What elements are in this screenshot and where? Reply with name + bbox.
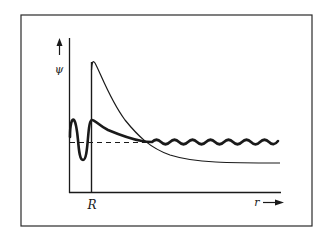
x-axis-label-group: r xyxy=(254,196,284,209)
diagram: ψ R r xyxy=(0,0,326,233)
r-marker-label: R xyxy=(86,198,96,212)
x-axis-label: r xyxy=(254,196,260,209)
figure-frame xyxy=(21,15,312,226)
y-axis-label-group: ψ xyxy=(55,38,64,76)
up-arrow-icon xyxy=(57,38,63,46)
right-arrow-icon xyxy=(275,200,284,206)
thin-decaying-curve xyxy=(92,62,281,163)
y-axis-label: ψ xyxy=(55,63,64,76)
thick-wavefunction xyxy=(70,120,278,160)
